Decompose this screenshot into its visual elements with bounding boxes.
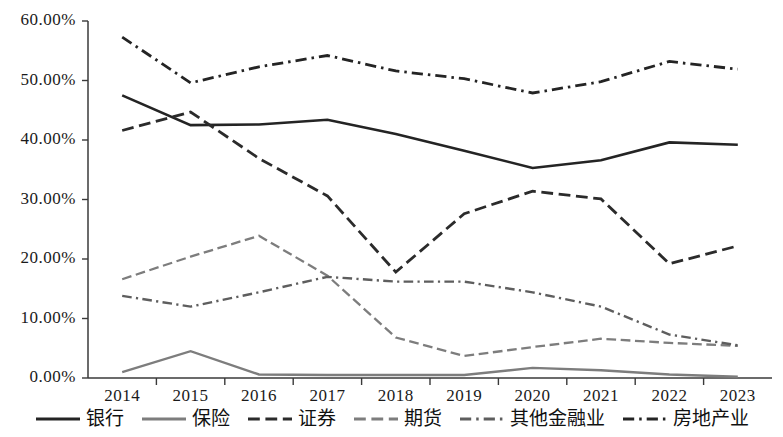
legend-swatch-icon [622, 412, 668, 426]
legend-label: 证券 [298, 409, 336, 428]
legend-label: 其他金融业 [510, 409, 605, 428]
y-axis-tick-label: 10.00% [0, 308, 76, 328]
plot-area [0, 0, 783, 437]
y-axis-tick-label: 50.00% [0, 70, 76, 90]
legend-item-2[interactable]: 证券 [247, 409, 336, 428]
y-axis-tick-label: 0.00% [0, 367, 76, 387]
legend-swatch-icon [459, 412, 505, 426]
legend-item-4[interactable]: 其他金融业 [459, 409, 605, 428]
legend-item-3[interactable]: 期货 [353, 409, 442, 428]
series-lines [122, 37, 738, 377]
y-axis-tick-label: 20.00% [0, 248, 76, 268]
legend-swatch-icon [35, 412, 81, 426]
legend-swatch-icon [247, 412, 293, 426]
series-line-0 [122, 95, 738, 168]
legend-label: 银行 [86, 409, 124, 428]
line-chart: 0.00%10.00%20.00%30.00%40.00%50.00%60.00… [0, 0, 783, 437]
legend-label: 保险 [192, 409, 230, 428]
series-line-3 [122, 236, 738, 356]
legend-item-5[interactable]: 房地产业 [622, 409, 749, 428]
axes [82, 21, 772, 385]
legend-item-0[interactable]: 银行 [35, 409, 124, 428]
series-line-4 [122, 277, 738, 345]
legend-label: 房地产业 [673, 409, 749, 428]
y-axis-tick-label: 30.00% [0, 189, 76, 209]
series-line-5 [122, 37, 738, 93]
legend-item-1[interactable]: 保险 [141, 409, 230, 428]
y-axis-tick-label: 60.00% [0, 10, 76, 30]
legend-swatch-icon [141, 412, 187, 426]
chart-legend: 银行保险证券期货其他金融业房地产业 [0, 400, 783, 437]
legend-swatch-icon [353, 412, 399, 426]
y-axis-tick-label: 40.00% [0, 129, 76, 149]
series-line-2 [122, 112, 738, 272]
legend-label: 期货 [404, 409, 442, 428]
series-line-1 [122, 351, 738, 377]
